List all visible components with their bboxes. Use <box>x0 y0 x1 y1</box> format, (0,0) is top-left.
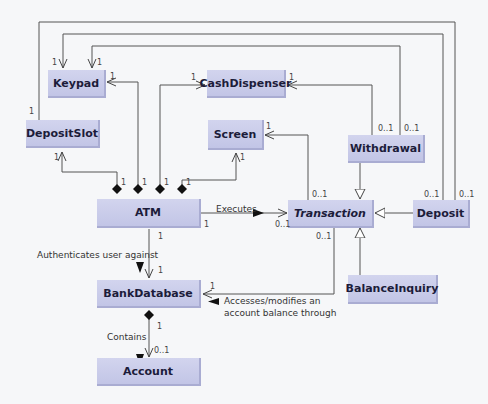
class-screen: Screen <box>208 120 264 150</box>
label-executes: Executes <box>216 204 257 214</box>
mult-transaction-executes: 0..1 <box>275 220 290 229</box>
mult-bankdb-atm: 1 <box>158 266 163 275</box>
class-deposit-slot: DepositSlot <box>26 120 100 148</box>
class-deposit: Deposit <box>413 200 470 228</box>
mult-account: 0..1 <box>154 346 169 355</box>
class-atm: ATM <box>97 199 201 228</box>
class-cash-dispenser: CashDispenser <box>207 70 286 98</box>
mult-keypad-atm: 1 <box>110 72 115 81</box>
mult-withdrawal-cash: 0..1 <box>378 124 393 133</box>
mult-atm-bankdb: 1 <box>158 232 163 241</box>
mult-atm-2: 1 <box>142 178 147 187</box>
mult-bankdb-account: 1 <box>157 322 162 331</box>
mult-keypad-withdrawal: 1 <box>97 58 102 67</box>
class-keypad: Keypad <box>48 70 106 98</box>
mult-transaction-bankdb: 0..1 <box>316 232 331 241</box>
mult-atm-3: 1 <box>164 178 169 187</box>
mult-cashdispenser-atm: 1 <box>191 73 196 82</box>
mult-bankdb-transaction: 1 <box>210 282 215 291</box>
mult-transaction-screen: 0..1 <box>312 190 327 199</box>
mult-keypad-deposit: 1 <box>52 58 57 67</box>
mult-atm-executes: 1 <box>204 220 209 229</box>
label-authenticates: Authenticates user against <box>37 250 158 260</box>
mult-deposit-slot: 0..1 <box>459 190 474 199</box>
class-transaction: Transaction <box>288 200 374 228</box>
label-contains: Contains <box>107 332 146 342</box>
mult-depositslot-deposit: 1 <box>29 107 34 116</box>
mult-withdrawal-keypad: 0..1 <box>404 124 419 133</box>
class-withdrawal: Withdrawal <box>348 135 425 163</box>
label-accesses-line1: Accesses/modifies an <box>224 296 321 306</box>
mult-atm-1: 1 <box>121 178 126 187</box>
mult-screen-atm: 1 <box>240 153 245 162</box>
mult-depositslot-atm: 1 <box>54 153 59 162</box>
label-accesses-line2: account balance through <box>224 308 336 318</box>
mult-deposit-keypad: 0..1 <box>424 190 439 199</box>
class-bank-database: BankDatabase <box>97 280 201 308</box>
mult-atm-4: 1 <box>186 178 191 187</box>
mult-cashdispenser-withdrawal: 1 <box>289 73 294 82</box>
uml-class-diagram: Keypad CashDispenser DepositSlot Screen … <box>0 0 488 404</box>
mult-screen-transaction: 1 <box>266 122 271 131</box>
class-account: Account <box>97 358 201 386</box>
class-balance-inquiry: BalanceInquiry <box>348 275 438 304</box>
